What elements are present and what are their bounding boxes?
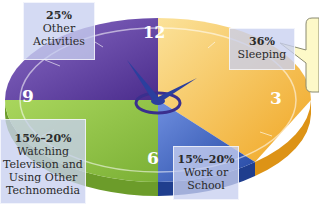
label-other-text: Other Activities (24, 22, 94, 48)
label-work-school: 15%–20% Work or School (173, 146, 239, 200)
label-sleeping: 36% Sleeping (229, 28, 295, 70)
label-other-pct: 25% (24, 9, 94, 22)
numeral-6: 6 (147, 148, 159, 168)
numeral-9: 9 (22, 86, 34, 106)
numeral-3: 3 (270, 88, 282, 108)
label-tv-pct: 15%–20% (1, 132, 85, 145)
label-work-pct: 15%–20% (174, 153, 238, 166)
label-other-activities: 25% Other Activities (23, 2, 95, 60)
label-television: 15%–20% Watching Television and Using Ot… (0, 119, 86, 204)
label-sleep-pct: 36% (230, 35, 294, 48)
label-tv-text: Watching Television and Using Other Tech… (1, 145, 85, 197)
numeral-12: 12 (143, 23, 165, 42)
label-sleep-text: Sleeping (230, 48, 294, 61)
label-work-text: Work or School (174, 166, 238, 192)
